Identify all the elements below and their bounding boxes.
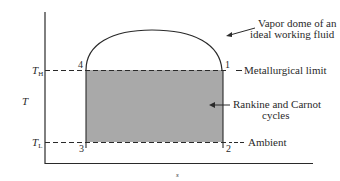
tl-annotation: Ambient — [248, 136, 287, 148]
dome-arrowhead — [226, 32, 232, 37]
vapor-dome-curve — [86, 30, 222, 70]
y-axis-label: T — [22, 95, 29, 107]
ts-diagram: T s TH TL 4 1 3 2 Vapor dome of an ideal… — [0, 0, 340, 181]
x-axis-label: s — [176, 171, 179, 179]
cycle-annotation-line2: cycles — [262, 109, 289, 121]
th-annotation: Metallurgical limit — [244, 64, 327, 76]
th-label: TH — [32, 64, 43, 78]
cycle-area — [86, 70, 223, 142]
point-4-label: 4 — [78, 59, 83, 70]
point-3-label: 3 — [79, 143, 84, 154]
point-2-label: 2 — [226, 143, 231, 154]
dome-annotation-line2: ideal working fluid — [250, 28, 335, 40]
tl-label: TL — [32, 136, 42, 150]
point-1-label: 1 — [225, 59, 230, 70]
